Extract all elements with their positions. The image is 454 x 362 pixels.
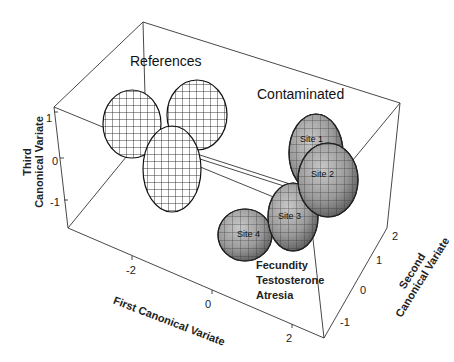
references-group (103, 80, 227, 212)
contaminated-label: Contaminated (257, 86, 344, 102)
legend: Fecundity Testosterone Atresia (256, 258, 324, 303)
y-tick-2: 2 (392, 230, 398, 242)
legend-fecundity: Fecundity (256, 258, 324, 273)
z-tick-neg1: -1 (50, 196, 60, 208)
reference-ellipsoid-c (143, 126, 201, 212)
z-tick-0: 0 (52, 155, 58, 167)
y-tick-0: 0 (360, 284, 366, 296)
legend-atresia: Atresia (256, 288, 324, 303)
y-tick-neg1: -1 (340, 316, 350, 328)
z-axis-title: Third Canonical Variate (21, 107, 45, 217)
y-tick-1: 1 (376, 254, 382, 266)
x-tick-2: 2 (286, 332, 292, 344)
site1-label: Site 1 (300, 134, 323, 144)
site3-label: Site 3 (278, 211, 301, 221)
site2-label: Site 2 (311, 169, 334, 179)
z-tick-1: 1 (46, 112, 52, 124)
site2-ellipsoid-mesh (298, 143, 358, 217)
z-axis-title-line2: Canonical Variate (33, 107, 45, 217)
z-axis-title-line1: Third (21, 107, 33, 217)
references-label: References (130, 53, 202, 69)
x-tick-0: 0 (205, 298, 211, 310)
x-tick-neg2: -2 (126, 264, 136, 276)
legend-testosterone: Testosterone (256, 273, 324, 288)
site4-label: Site 4 (237, 229, 260, 239)
